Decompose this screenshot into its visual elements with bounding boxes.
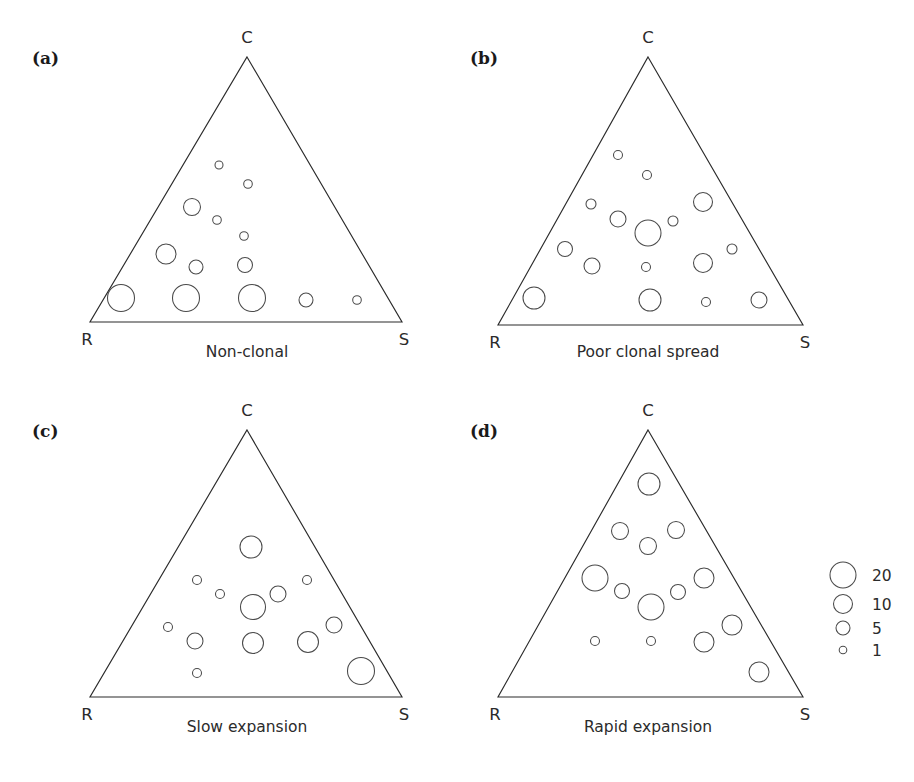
vertex-label-r-a: R: [81, 330, 92, 349]
panel-tag-b: (b): [470, 48, 498, 68]
vertex-label-c-d: C: [642, 401, 654, 420]
legend-label: 10: [872, 596, 892, 614]
vertex-label-c-a: C: [241, 28, 253, 47]
vertex-label-r-d: R: [489, 705, 500, 724]
panel-caption-b: Poor clonal spread: [577, 343, 720, 361]
legend-label: 1: [872, 642, 882, 660]
vertex-label-s-c: S: [399, 705, 409, 724]
figure-root: (a)CRSNon-clonal(b)CRSPoor clonal spread…: [0, 0, 914, 782]
vertex-label-c-c: C: [241, 401, 253, 420]
panel-tag-c: (c): [32, 421, 58, 441]
figure-background: [0, 0, 914, 782]
vertex-label-s-b: S: [800, 333, 810, 352]
vertex-label-c-b: C: [642, 28, 654, 47]
vertex-label-r-c: R: [81, 705, 92, 724]
legend-label: 20: [872, 567, 892, 585]
panel-tag-a: (a): [32, 48, 59, 68]
ternary-figure-canvas: (a)CRSNon-clonal(b)CRSPoor clonal spread…: [0, 0, 914, 782]
panel-caption-c: Slow expansion: [187, 718, 308, 736]
vertex-label-s-a: S: [399, 330, 409, 349]
panel-caption-a: Non-clonal: [206, 343, 288, 361]
vertex-label-s-d: S: [800, 705, 810, 724]
vertex-label-r-b: R: [489, 333, 500, 352]
panel-caption-d: Rapid expansion: [584, 718, 712, 736]
legend-label: 5: [872, 620, 882, 638]
panel-tag-d: (d): [470, 421, 498, 441]
